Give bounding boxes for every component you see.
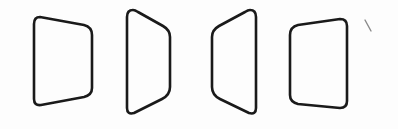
trapezoid-1 [34,17,92,105]
trapezoid-2 [127,10,170,113]
trapezoid-4 [290,19,347,108]
diagram-canvas: Four rounded trapezoids in perspective (… [0,0,398,129]
stray-mark [365,20,371,31]
trapezoid-diagram [0,0,398,129]
trapezoid-3 [212,10,256,113]
